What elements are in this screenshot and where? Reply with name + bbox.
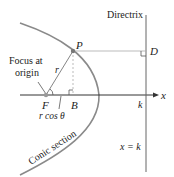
k-tick-label: k bbox=[138, 99, 143, 110]
focus-pointer bbox=[38, 82, 46, 94]
fp-segment-r bbox=[46, 51, 73, 95]
diagram-svg: Directrix P D Focus at origin r F B r co… bbox=[0, 0, 174, 177]
rcos-pointer bbox=[59, 96, 61, 109]
point-f-dot bbox=[44, 93, 48, 97]
conic-section-diagram: Directrix P D Focus at origin r F B r co… bbox=[0, 0, 174, 177]
point-b-label: B bbox=[71, 99, 78, 111]
right-angle-d bbox=[141, 51, 146, 56]
point-p-label: P bbox=[75, 39, 83, 51]
r-label: r bbox=[55, 64, 59, 75]
theta-arc bbox=[50, 89, 53, 95]
point-d-label: D bbox=[149, 45, 158, 57]
point-f-label: F bbox=[41, 99, 49, 111]
origin-label: origin bbox=[15, 67, 39, 78]
line-equation-label: x = k bbox=[119, 141, 141, 152]
focus-at-label: Focus at bbox=[9, 55, 43, 66]
x-axis-arrow-icon bbox=[153, 93, 159, 98]
r-cos-theta-label: r cos θ bbox=[39, 111, 65, 121]
directrix-label: Directrix bbox=[107, 9, 143, 20]
right-angle-b bbox=[69, 90, 73, 95]
conic-section-label: Conic section bbox=[26, 128, 78, 167]
conic-curve bbox=[20, 23, 99, 175]
x-axis-label: x bbox=[160, 89, 166, 101]
point-p-dot bbox=[71, 49, 75, 53]
